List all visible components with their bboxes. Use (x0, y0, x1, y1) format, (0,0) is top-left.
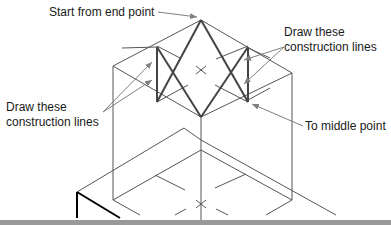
label-draw-lines-right-line1: Draw these (284, 25, 345, 40)
label-to-middle-point: To middle point (305, 119, 386, 134)
bold-corner (77, 192, 120, 218)
label-draw-lines-right-line2: construction lines (284, 40, 377, 55)
label-draw-lines-left-line1: Draw these (6, 100, 67, 115)
label-draw-lines-left-line2: construction lines (6, 115, 99, 130)
lower-block-outline (77, 128, 336, 215)
upper-block-outline (113, 20, 292, 220)
bottom-border (0, 220, 391, 225)
label-start-from-end-point: Start from end point (49, 5, 154, 20)
isometric-diagram: Start from end point Draw these construc… (0, 0, 391, 225)
